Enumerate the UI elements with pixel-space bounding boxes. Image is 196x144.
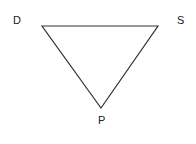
triangle-shape [42, 26, 158, 108]
vertex-label-p: P [98, 115, 105, 126]
vertex-label-d: D [13, 15, 21, 26]
vertex-label-s: S [177, 15, 184, 26]
